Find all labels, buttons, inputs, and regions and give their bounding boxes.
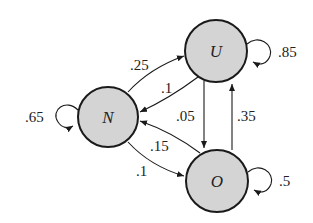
- edge-o-to-n: [140, 121, 200, 153]
- label-o-to-u: .35: [237, 108, 256, 124]
- label-n-to-u: .25: [130, 57, 149, 73]
- self-loop-u: [247, 40, 271, 64]
- label-u-to-o: .05: [176, 108, 195, 124]
- label-u-to-n: .1: [161, 80, 172, 96]
- self-loop-n: [56, 105, 78, 128]
- label-o-to-n: .15: [150, 138, 169, 154]
- node-u-label: U: [210, 42, 224, 61]
- label-o-self: .5: [279, 173, 290, 189]
- label-n-self: .65: [25, 109, 44, 125]
- node-u: U: [185, 20, 247, 82]
- node-o-label: O: [211, 172, 223, 191]
- label-u-self: .85: [278, 44, 297, 60]
- node-n: N: [78, 87, 138, 147]
- node-n-label: N: [101, 108, 115, 127]
- self-loop-o: [248, 168, 272, 192]
- node-o: O: [186, 150, 248, 212]
- label-n-to-o: .1: [136, 163, 147, 179]
- state-diagram: N U O .25 .1 .05 .35 .15 .1 .65 .85 .5: [0, 0, 313, 223]
